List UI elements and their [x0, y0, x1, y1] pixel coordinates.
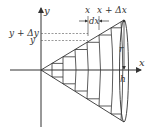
x-axis-label: x	[139, 57, 145, 68]
x-plus-dx-label: x + Δx	[97, 5, 127, 15]
x-label: x	[85, 5, 90, 15]
r-label: r	[119, 44, 124, 54]
y-label: y	[29, 35, 36, 45]
cone-tip-point	[123, 20, 126, 23]
h-label: h	[120, 74, 126, 84]
disk-slices	[52, 22, 123, 120]
cone-slicing-diagram: y x x x + Δx dx y + Δy y r h	[0, 0, 152, 132]
y-axis-label: y	[43, 5, 50, 16]
dx-label: dx	[89, 16, 99, 26]
